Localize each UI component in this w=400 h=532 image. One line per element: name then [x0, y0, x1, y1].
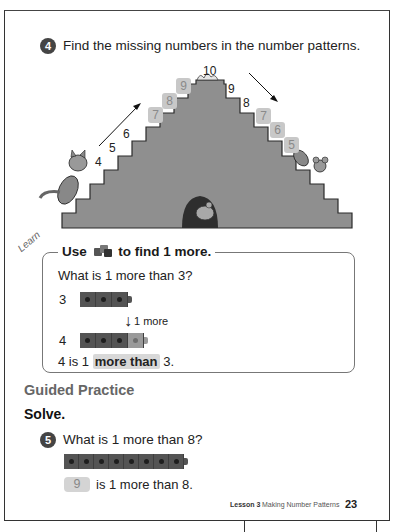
- cube: [79, 454, 94, 469]
- top-step-number: 10: [203, 64, 216, 78]
- cube: [112, 333, 128, 348]
- row2-label: 4: [59, 333, 66, 348]
- step-number: 4: [95, 155, 102, 169]
- cube: [169, 454, 184, 469]
- step-number: 8: [243, 96, 250, 110]
- cube: [139, 454, 154, 469]
- divider: [376, 521, 377, 532]
- cube-train-3: [80, 292, 132, 307]
- learn-conclusion: 4 is 1 more than 3.: [58, 354, 174, 369]
- answer-box: 9: [176, 78, 191, 94]
- arrow-label: 1 more: [134, 315, 168, 327]
- conclusion-prefix: 4 is 1: [58, 354, 89, 369]
- cube-train-8: [64, 454, 188, 469]
- cube: [96, 333, 112, 348]
- cube: [80, 292, 96, 307]
- cube: [64, 454, 79, 469]
- step-number: 6: [123, 127, 130, 141]
- question-5-text: What is 1 more than 8?: [63, 432, 203, 447]
- answer-box: 6: [270, 122, 285, 138]
- conclusion-suffix: 3.: [163, 354, 174, 369]
- staircase-illustration: [0, 0, 400, 240]
- down-arrow-icon: ↓: [124, 312, 132, 330]
- cube: [94, 454, 109, 469]
- cube: [109, 454, 124, 469]
- step-number: 9: [228, 82, 235, 96]
- cube-train-4: [80, 333, 148, 348]
- conclusion-highlight: more than: [93, 354, 160, 369]
- connecting-cubes-icon: [94, 245, 112, 257]
- learn-heading-suffix: to find 1 more.: [118, 244, 211, 259]
- page-number: 23: [345, 498, 357, 510]
- guided-practice-title: Guided Practice: [24, 382, 134, 398]
- row1-label: 3: [59, 292, 66, 307]
- solve-instruction: Solve.: [24, 406, 65, 422]
- cube-connector: [184, 458, 188, 465]
- cube: [154, 454, 169, 469]
- learn-heading: Use to find 1 more.: [58, 244, 215, 259]
- cube: [112, 292, 128, 307]
- footer-title: Making Number Patterns: [262, 501, 339, 508]
- cube-added: [128, 333, 144, 348]
- answer-box: 8: [162, 93, 177, 109]
- answer-box: 5: [284, 137, 299, 153]
- divider: [244, 521, 245, 532]
- answer-sentence: is 1 more than 8.: [96, 477, 193, 492]
- cube-connector: [144, 337, 148, 344]
- learn-heading-prefix: Use: [62, 244, 87, 259]
- cube: [80, 333, 96, 348]
- learn-question: What is 1 more than 3?: [58, 268, 192, 283]
- answer-box: 7: [256, 108, 271, 124]
- cube-connector: [128, 296, 132, 303]
- cube: [124, 454, 139, 469]
- question-number-badge: 5: [40, 432, 56, 448]
- step-number: 5: [109, 141, 116, 155]
- answer-box: 7: [148, 107, 163, 123]
- lesson-label: Lesson 3: [230, 501, 260, 508]
- answer-box: 9: [64, 477, 90, 492]
- cube: [96, 292, 112, 307]
- footer-lesson: Lesson 3: [230, 501, 260, 508]
